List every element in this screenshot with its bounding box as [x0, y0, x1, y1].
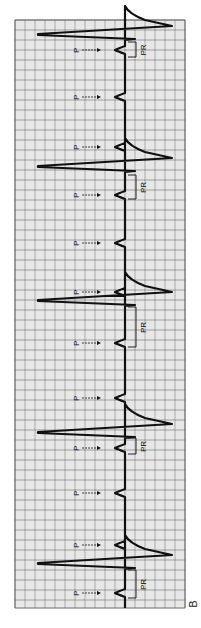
- p-wave-label: P: [72, 491, 81, 496]
- pr-interval-label: PR: [139, 579, 148, 590]
- p-wave-label: P: [72, 145, 81, 150]
- pr-interval-label: PR: [139, 441, 148, 452]
- p-wave-label: P: [72, 396, 81, 401]
- p-wave-label: P: [72, 241, 81, 246]
- p-wave-label: P: [72, 48, 81, 53]
- p-wave-label: P: [72, 95, 81, 100]
- p-wave-label: P: [72, 193, 81, 198]
- pr-interval-label: PR: [139, 44, 148, 55]
- p-wave-label: P: [72, 543, 81, 548]
- p-wave-label: P: [72, 591, 81, 596]
- p-wave-label: P: [72, 290, 81, 295]
- figure-label: B: [187, 600, 199, 607]
- pr-interval-label: PR: [139, 322, 148, 333]
- grid: [15, 20, 185, 608]
- ecg-strip: PPPPPPPPPPPPPRPRPRPRPR: [0, 0, 201, 628]
- p-wave-label: P: [72, 341, 81, 346]
- pr-interval-label: PR: [139, 182, 148, 193]
- p-wave-label: P: [72, 446, 81, 451]
